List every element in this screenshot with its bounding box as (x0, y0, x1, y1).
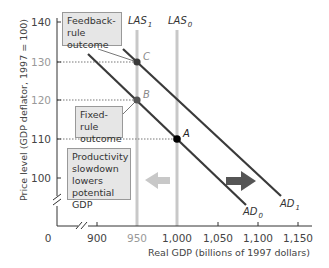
y-tick-100: 100 (31, 172, 51, 184)
y-tick-120: 120 (31, 94, 51, 106)
productivity-callout: Productivity slowdown lowers potential G… (67, 148, 131, 200)
x-tick-1000: 1,000 (162, 232, 192, 244)
las1-label: LAS1 (128, 15, 152, 29)
productivity-line2: slowdown (72, 163, 126, 175)
x-axis-title: Real GDP (billions of 1997 dollars) (148, 247, 310, 258)
ad0-label: AD0 (242, 206, 264, 220)
feedback-line1: Feedback-rule (67, 15, 117, 39)
point-c-label: C (143, 51, 150, 62)
x-tick-1100: 1,100 (243, 232, 273, 244)
x-tick-1150: 1,150 (283, 232, 313, 244)
feedback-rule-callout: Feedback-rule outcome (62, 12, 122, 46)
point-c (133, 58, 140, 65)
point-b (133, 96, 140, 103)
y-ticks (57, 22, 61, 178)
x-tick-950: 950 (127, 232, 147, 244)
productivity-line3: lowers (72, 175, 126, 187)
y-tick-140: 140 (31, 16, 51, 28)
point-a-label: A (182, 128, 190, 139)
chart: 140 130 120 110 100 0 900 950 1,000 1,05… (0, 0, 329, 268)
x-ticks (97, 222, 298, 226)
x-tick-900: 900 (87, 232, 107, 244)
x-tick-1050: 1,050 (203, 232, 233, 244)
productivity-line4: potential GDP (72, 187, 126, 211)
fixed-line1: Fixed-rule (80, 109, 118, 133)
ad1-label: AD1 (279, 198, 300, 212)
feedback-line2: outcome (67, 39, 117, 51)
productivity-line1: Productivity (72, 151, 126, 163)
origin-label: 0 (45, 232, 52, 244)
point-a (173, 135, 181, 143)
las0-label: LAS0 (168, 15, 193, 29)
y-tick-130: 130 (31, 56, 51, 68)
ad-shift-right-arrow-icon (226, 171, 256, 191)
y-tick-110: 110 (31, 133, 51, 145)
y-axis-title: Price level (GDP deflator, 1997 = 100) (18, 19, 29, 201)
ad1-curve (123, 49, 281, 196)
fixed-line2: outcome (80, 133, 118, 145)
point-b-label: B (143, 89, 150, 100)
fixed-rule-callout: Fixed-rule outcome (75, 106, 123, 138)
las-shift-left-arrow-icon (145, 172, 170, 189)
